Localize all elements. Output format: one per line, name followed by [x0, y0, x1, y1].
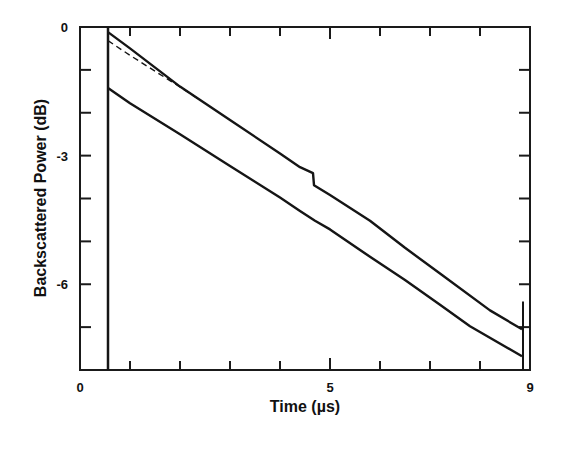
plot-border	[80, 27, 530, 370]
series-upper-trace	[108, 32, 522, 329]
data-series	[108, 32, 522, 356]
chart: 0590-3-6 Time (µs) Backscattered Power (…	[0, 0, 562, 450]
plot-frame	[80, 27, 530, 370]
y-axis-label: Backscattered Power (dB)	[32, 99, 49, 297]
x-axis-label: Time (µs)	[270, 398, 340, 415]
y-tick-label: -6	[56, 277, 68, 292]
x-tick-label: 5	[326, 380, 333, 395]
y-tick-label: -3	[56, 149, 68, 164]
axis-ticks	[80, 27, 530, 370]
y-tick-label: 0	[61, 20, 68, 35]
series-fitted-line	[108, 41, 200, 100]
x-tick-label: 0	[76, 380, 83, 395]
x-tick-label: 9	[526, 380, 533, 395]
series-lower-trace	[108, 88, 522, 356]
